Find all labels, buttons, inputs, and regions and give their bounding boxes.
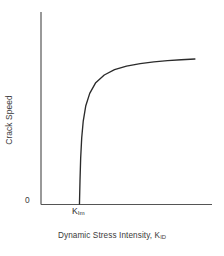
y-axis-title: Crack Speed [2,72,16,168]
crack-speed-chart: Crack Speed 0 KIm Dynamic Stress Intensi… [0,0,224,256]
threshold-label: KIm [72,206,85,216]
threshold-subscript-text: Im [78,209,85,216]
origin-tick-label: 0 [25,195,30,205]
x-axis-title-inner: Dynamic Stress Intensity, KID [58,231,166,240]
y-axis-title-text: Crack Speed [4,95,14,145]
x-axis-title-text: Dynamic Stress Intensity, K [58,231,160,240]
x-axis-title-subscript: ID [160,234,166,240]
plot-canvas [0,0,224,256]
x-axis-title: Dynamic Stress Intensity, KID [0,231,224,240]
crack-speed-curve [79,59,194,204]
